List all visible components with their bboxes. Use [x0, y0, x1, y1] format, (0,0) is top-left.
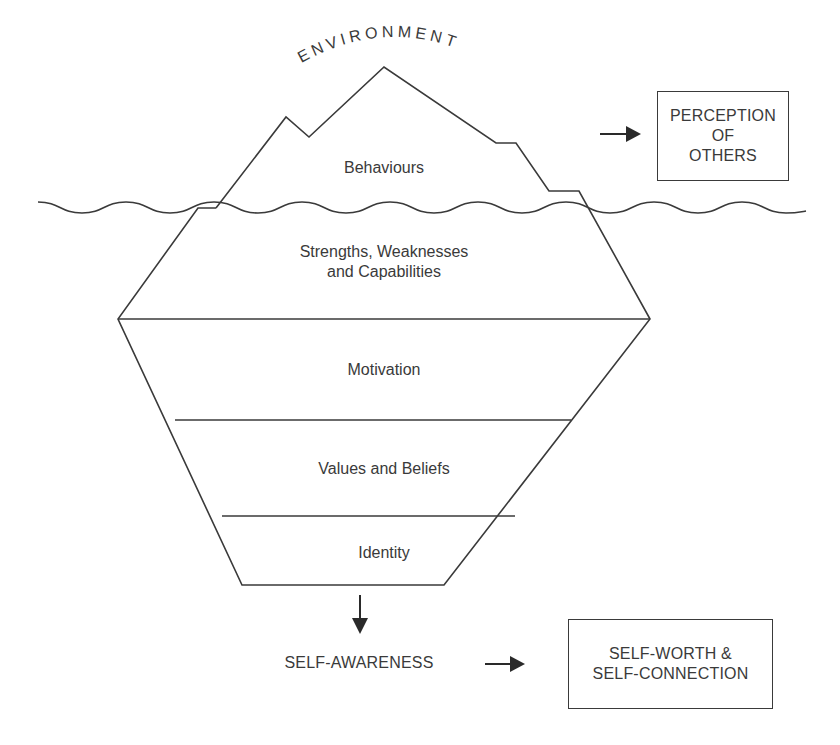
self-worth-label: SELF-WORTH & SELF-CONNECTION: [593, 644, 749, 684]
layer-label-values: Values and Beliefs: [318, 459, 449, 479]
self-awareness-label: SELF-AWARENESS: [284, 653, 433, 673]
iceberg-outline: [118, 67, 650, 585]
layer-label-strengths: Strengths, Weaknesses and Capabilities: [300, 242, 469, 282]
arrow-down-icon: [352, 595, 368, 634]
arrow-right-icon: [600, 126, 641, 142]
perception-of-others-label: PERCEPTION OF OTHERS: [670, 106, 776, 166]
layer-label-motivation: Motivation: [348, 360, 421, 380]
layer-label-identity: Identity: [358, 543, 410, 563]
layer-label-behaviours: Behaviours: [344, 158, 424, 178]
self-worth-box: SELF-WORTH & SELF-CONNECTION: [568, 619, 773, 709]
arrow-right-icon: [485, 656, 525, 672]
perception-of-others-box: PERCEPTION OF OTHERS: [657, 91, 789, 181]
water-line: [38, 202, 806, 213]
environment-arc-label: ENVIRONMENT: [295, 23, 462, 66]
